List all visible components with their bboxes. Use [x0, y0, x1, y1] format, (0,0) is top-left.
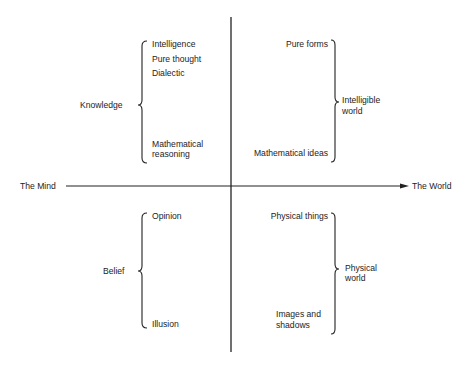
belief-brace — [138, 213, 147, 328]
intelligible-brace — [331, 40, 339, 162]
axis-label-the-world: The World — [412, 181, 451, 192]
item-pure-thought: Pure thought — [152, 54, 201, 65]
item-physical-things: Physical things — [271, 211, 328, 222]
item-illusion: Illusion — [152, 319, 179, 330]
knowledge-brace — [138, 41, 147, 163]
group-label-physical-line2: world — [345, 273, 366, 284]
item-mathematical-ideas: Mathematical ideas — [254, 148, 328, 159]
item-pure-forms: Pure forms — [286, 39, 328, 50]
group-label-intelligible-line1: Intelligible — [342, 95, 380, 106]
item-opinion: Opinion — [152, 211, 182, 222]
group-label-belief: Belief — [103, 266, 125, 277]
arrow-right-icon — [400, 184, 409, 189]
item-dialectic: Dialectic — [152, 68, 184, 79]
diagram-lines — [0, 0, 476, 367]
item-images-and-shadows-line2: shadows — [276, 320, 310, 331]
axis-label-the-mind: The Mind — [20, 181, 56, 192]
item-images-and-shadows-line1: Images and — [276, 309, 321, 320]
physical-brace — [331, 213, 339, 334]
group-label-knowledge: Knowledge — [80, 100, 123, 111]
group-label-intelligible-line2: world — [342, 106, 363, 117]
item-intelligence: Intelligence — [152, 39, 195, 50]
item-mathematical-reasoning-line2: reasoning — [152, 149, 190, 160]
